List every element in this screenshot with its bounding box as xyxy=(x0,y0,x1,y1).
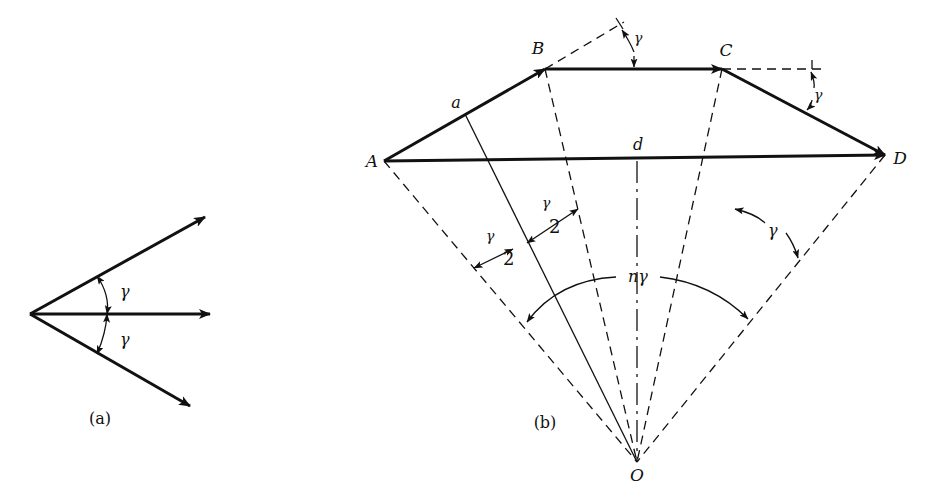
angle-label-right: γ xyxy=(768,221,778,240)
vector-AD xyxy=(384,155,885,161)
angle-arc-lower xyxy=(97,314,107,354)
point-label-C: C xyxy=(719,40,732,60)
angle-label-C: γ xyxy=(814,87,823,103)
half-angle-num-1: γ xyxy=(486,228,495,244)
radial-OD xyxy=(637,155,885,462)
point-label-D: D xyxy=(892,148,907,168)
point-label-A: A xyxy=(364,151,378,171)
angle-arc-C-top xyxy=(811,72,814,88)
angle-arc-right-top xyxy=(735,209,765,223)
radial-OB xyxy=(545,69,637,462)
figure-b: γ γ γ 2 γ 2 γ nγ A B C D O a xyxy=(364,18,907,485)
angle-arc-upper xyxy=(97,276,108,314)
vector-upper xyxy=(30,217,205,314)
vector-AB xyxy=(384,69,545,161)
half-angle-num-2: γ xyxy=(542,195,551,211)
caption-b: (b) xyxy=(534,413,557,432)
half-angle-den-2: 2 xyxy=(549,216,560,237)
angle-arc-right-bottom xyxy=(786,233,798,258)
segment-label-d: d xyxy=(633,135,643,154)
segment-label-a: a xyxy=(451,93,461,112)
angle-label-upper: γ xyxy=(120,282,130,301)
diagram-canvas: γ γ (a) γ γ γ 2 γ 2 xyxy=(0,0,935,487)
vector-CD xyxy=(722,69,885,155)
angle-label-B: γ xyxy=(634,30,643,46)
vector-lower xyxy=(30,314,190,406)
radial-OC xyxy=(637,69,722,462)
angle-arc-ngamma-left xyxy=(527,277,616,322)
point-label-B: B xyxy=(531,38,545,58)
angle-arc-ngamma-right xyxy=(660,277,748,319)
angle-arc-B xyxy=(622,30,634,52)
half-angle-den-1: 2 xyxy=(503,248,514,269)
tick-B xyxy=(616,18,623,29)
point-label-O: O xyxy=(630,465,644,485)
extension-AB xyxy=(545,22,624,69)
angle-label-ngamma: nγ xyxy=(628,267,648,286)
caption-a: (a) xyxy=(89,409,111,428)
angle-label-lower: γ xyxy=(120,330,130,349)
figure-a: γ γ (a) xyxy=(30,217,210,428)
angle-arc-C-bottom xyxy=(807,100,812,110)
